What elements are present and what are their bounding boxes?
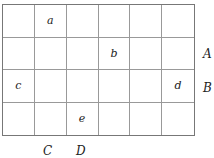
grid-cell: [35, 103, 67, 136]
grid-cell: [3, 103, 35, 136]
grid-cell: [3, 38, 35, 71]
label-C: C: [43, 144, 52, 158]
grid-cell: [67, 5, 99, 38]
grid-cell: [67, 70, 99, 103]
grid-cell: [130, 103, 162, 136]
grid-cell: e: [67, 103, 99, 136]
grid-cell: [35, 70, 67, 103]
grid-cell: a: [35, 5, 67, 38]
label-D: D: [76, 144, 86, 158]
grid-cell: d: [162, 70, 194, 103]
label-B: B: [203, 81, 212, 95]
grid-cell: [35, 38, 67, 71]
grid-cell: [99, 103, 131, 136]
label-A: A: [203, 47, 212, 61]
grid-cell: b: [99, 38, 131, 71]
grid-cell: [130, 5, 162, 38]
grid-cell: [162, 38, 194, 71]
letter-grid: abcde: [2, 4, 195, 136]
grid-cell: [99, 5, 131, 38]
grid-cell: [130, 70, 162, 103]
grid-cell: [67, 38, 99, 71]
grid-cell: [162, 5, 194, 38]
grid-cell: c: [3, 70, 35, 103]
grid-cell: [130, 38, 162, 71]
grid-cell: [99, 70, 131, 103]
grid-cell: [162, 103, 194, 136]
grid-cell: [3, 5, 35, 38]
